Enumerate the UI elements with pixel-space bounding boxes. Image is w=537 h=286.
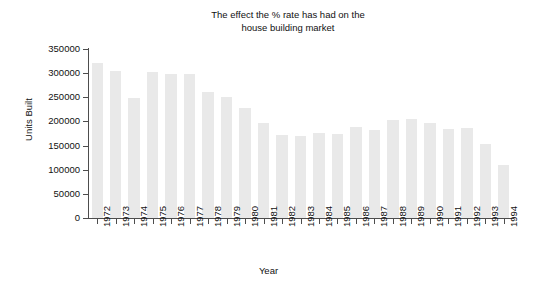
x-axis-tick-label: 1984 bbox=[323, 206, 334, 227]
y-axis-tick-label: 100000 bbox=[48, 164, 80, 175]
bar bbox=[258, 123, 269, 218]
x-axis-tick-label: 1993 bbox=[489, 206, 500, 227]
x-axis-tick-label: 1979 bbox=[231, 206, 242, 227]
bar bbox=[110, 71, 121, 218]
x-axis-tick-label: 1987 bbox=[378, 206, 389, 227]
y-axis-tick-label: 250000 bbox=[48, 91, 80, 102]
x-axis-tick-mark bbox=[319, 219, 320, 224]
bar bbox=[369, 130, 380, 218]
x-axis-tick-mark bbox=[171, 219, 172, 224]
x-axis-tick-mark bbox=[97, 219, 98, 224]
bar bbox=[128, 98, 139, 218]
x-axis-tick-mark bbox=[264, 219, 265, 224]
bar bbox=[406, 119, 417, 218]
x-axis-tick-mark bbox=[282, 219, 283, 224]
x-axis-tick-mark bbox=[134, 219, 135, 224]
x-axis-label: Year bbox=[0, 265, 537, 276]
x-axis-tick-mark bbox=[374, 219, 375, 224]
y-axis-tick-label: 350000 bbox=[48, 43, 80, 54]
x-axis-tick-label: 1972 bbox=[101, 206, 112, 227]
x-axis-tick-label: 1974 bbox=[138, 206, 149, 227]
x-axis-tick-mark bbox=[245, 219, 246, 224]
bar bbox=[184, 74, 195, 218]
y-axis-tick-label: 150000 bbox=[48, 140, 80, 151]
x-axis-tick-label: 1992 bbox=[471, 206, 482, 227]
x-axis-tick-mark bbox=[356, 219, 357, 224]
bar bbox=[461, 128, 472, 218]
x-axis-tick-mark bbox=[301, 219, 302, 224]
x-axis-tick-mark bbox=[411, 219, 412, 224]
x-axis-tick-mark bbox=[208, 219, 209, 224]
x-axis-tick-mark bbox=[116, 219, 117, 224]
x-axis-tick-label: 1978 bbox=[212, 206, 223, 227]
y-axis-tick: 0 bbox=[83, 218, 88, 219]
x-axis-tick-label: 1980 bbox=[249, 206, 260, 227]
x-axis-tick-label: 1988 bbox=[397, 206, 408, 227]
x-axis-tick-label: 1990 bbox=[434, 206, 445, 227]
x-axis-tick-label: 1976 bbox=[175, 206, 186, 227]
bar bbox=[424, 123, 435, 218]
x-axis-tick-mark bbox=[153, 219, 154, 224]
x-axis-tick-mark bbox=[467, 219, 468, 224]
x-axis-tick-label: 1982 bbox=[286, 206, 297, 227]
x-axis-tick-label: 1986 bbox=[360, 206, 371, 227]
bar bbox=[350, 127, 361, 218]
x-axis-tick-label: 1973 bbox=[120, 206, 131, 227]
x-axis-tick-mark bbox=[430, 219, 431, 224]
bar bbox=[443, 129, 454, 218]
x-axis-tick-mark bbox=[337, 219, 338, 224]
x-axis-tick-label: 1983 bbox=[305, 206, 316, 227]
x-axis-tick-label: 1991 bbox=[452, 206, 463, 227]
y-axis-tick-label: 300000 bbox=[48, 67, 80, 78]
chart-title: The effect the % rate has had on the hou… bbox=[108, 8, 468, 34]
x-axis-tick-label: 1977 bbox=[194, 206, 205, 227]
bar bbox=[239, 108, 250, 218]
x-axis-tick-label: 1975 bbox=[157, 206, 168, 227]
x-axis-tick-mark bbox=[393, 219, 394, 224]
x-axis-tick-label: 1981 bbox=[268, 206, 279, 227]
chart-figure: The effect the % rate has had on the hou… bbox=[0, 0, 537, 286]
x-axis-tick-mark bbox=[485, 219, 486, 224]
bar bbox=[147, 72, 158, 218]
y-axis-tick-label: 0 bbox=[75, 212, 80, 223]
plot-area bbox=[88, 49, 513, 218]
y-axis-label: Units Built bbox=[23, 75, 34, 165]
x-axis-tick-label: 1994 bbox=[508, 206, 519, 227]
bar bbox=[92, 63, 103, 218]
y-axis-tick-label: 50000 bbox=[54, 188, 80, 199]
bar bbox=[387, 120, 398, 218]
bar bbox=[221, 97, 232, 218]
x-axis-tick-mark bbox=[227, 219, 228, 224]
x-axis-tick-label: 1985 bbox=[341, 206, 352, 227]
x-axis-tick-mark bbox=[448, 219, 449, 224]
x-axis-tick-mark bbox=[190, 219, 191, 224]
y-axis-tick-mark bbox=[83, 218, 88, 219]
x-axis-tick-label: 1989 bbox=[415, 206, 426, 227]
y-axis-tick-label: 200000 bbox=[48, 115, 80, 126]
bar bbox=[202, 92, 213, 219]
x-axis-tick-mark bbox=[504, 219, 505, 224]
bar bbox=[165, 74, 176, 218]
